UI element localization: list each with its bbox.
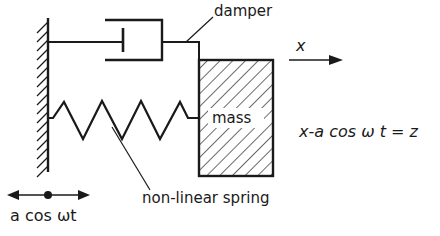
x-direction-arrow	[289, 55, 343, 65]
wall-hatching	[37, 22, 48, 177]
damper-rod-right	[162, 42, 199, 60]
relation-equation: x-a cos ω t = z	[299, 122, 418, 141]
displacement-x-label: x	[296, 36, 305, 55]
damper-label: damper	[214, 2, 272, 20]
damper	[48, 20, 199, 60]
spring-label: non-linear spring	[142, 189, 270, 207]
non-linear-spring	[48, 101, 199, 139]
mass-label: mass	[212, 109, 251, 127]
wall	[37, 18, 48, 177]
spring-leader-line	[112, 127, 150, 190]
damper-leader-line	[186, 17, 213, 42]
excitation-label: a cos ωt	[10, 206, 77, 225]
base-point-dot	[44, 191, 52, 199]
base-excitation-arrow	[7, 190, 90, 200]
damper-cylinder	[105, 20, 162, 60]
